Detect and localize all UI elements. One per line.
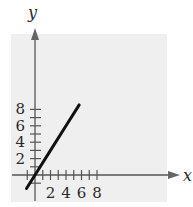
y-tick-label: 2 bbox=[15, 150, 25, 168]
y-tick-label: 8 bbox=[15, 100, 25, 118]
y-tick-labels: 2468 bbox=[15, 100, 25, 167]
y-tick-label: 6 bbox=[15, 117, 25, 135]
x-tick-label: 4 bbox=[61, 184, 71, 202]
x-axis-arrow-icon bbox=[168, 171, 180, 179]
x-tick-label: 2 bbox=[46, 184, 56, 202]
chart: 2468 2468 x y bbox=[0, 0, 193, 207]
y-axis-label: y bbox=[27, 3, 38, 22]
x-tick-label: 6 bbox=[77, 184, 87, 202]
y-tick-label: 4 bbox=[15, 133, 25, 151]
x-tick-label: 8 bbox=[92, 184, 102, 202]
x-axis-label: x bbox=[183, 166, 192, 185]
